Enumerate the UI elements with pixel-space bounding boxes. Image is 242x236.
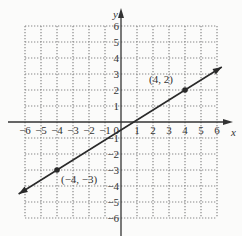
y-tick-label: −6 xyxy=(107,212,119,224)
y-tick-label: −5 xyxy=(107,196,119,208)
point-label: (−4, −3) xyxy=(61,173,98,186)
data-line xyxy=(19,67,222,194)
y-tick-label: 1 xyxy=(114,100,120,112)
point-label: (4, 2) xyxy=(149,73,173,86)
x-tick-label: 5 xyxy=(198,124,204,136)
data-point xyxy=(182,87,188,93)
x-axis-arrow-icon xyxy=(223,119,233,125)
y-tick-label: 4 xyxy=(114,52,120,64)
x-tick-label: 4 xyxy=(182,124,188,136)
x-tick-label: 2 xyxy=(150,124,156,136)
x-tick-label: 3 xyxy=(166,124,172,136)
coordinate-plane: xy −6−5−4−3−2−1123456−6−5−4−3−2−11234560… xyxy=(0,0,242,236)
line-arrow-left-icon xyxy=(19,187,28,194)
y-axis-arrow-icon xyxy=(118,8,124,18)
x-tick-label: 6 xyxy=(214,124,220,136)
y-tick-label: 3 xyxy=(114,68,120,80)
y-tick-label: −3 xyxy=(107,164,119,176)
data-point xyxy=(54,167,60,173)
y-tick-label: −4 xyxy=(107,180,119,192)
x-tick-label: −4 xyxy=(51,124,63,136)
y-tick-label: 2 xyxy=(114,84,120,96)
line-arrow-right-icon xyxy=(212,67,221,74)
x-tick-label: 1 xyxy=(134,124,140,136)
y-axis-label: y xyxy=(112,8,118,20)
x-tick-label: −3 xyxy=(67,124,79,136)
y-tick-label: 6 xyxy=(114,20,120,32)
y-tick-label: 5 xyxy=(114,36,120,48)
x-tick-label: −2 xyxy=(83,124,95,136)
x-tick-label: −6 xyxy=(19,124,31,136)
line-series xyxy=(19,67,222,194)
x-tick-label: −5 xyxy=(35,124,47,136)
y-tick-label: −2 xyxy=(107,148,119,160)
x-axis-label: x xyxy=(230,126,236,138)
